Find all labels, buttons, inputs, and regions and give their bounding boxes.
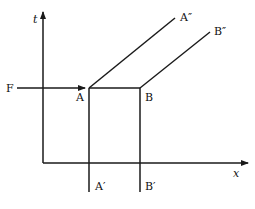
- label-a-prime: A′: [94, 180, 106, 193]
- x-axis-label: x: [233, 167, 240, 180]
- worldline-b-double-prime: [140, 32, 210, 88]
- worldline-a-double-prime: [89, 18, 175, 88]
- label-f: F: [6, 82, 14, 95]
- t-axis-label: t: [33, 13, 38, 26]
- label-b: B: [145, 91, 153, 104]
- label-a-double-prime: A″: [179, 11, 192, 24]
- label-b-double-prime: B″: [214, 25, 226, 38]
- label-a: A: [75, 91, 85, 104]
- label-b-prime: B′: [145, 180, 156, 193]
- spacetime-diagram: t x F A B A″ B″ A′ B′: [0, 0, 255, 209]
